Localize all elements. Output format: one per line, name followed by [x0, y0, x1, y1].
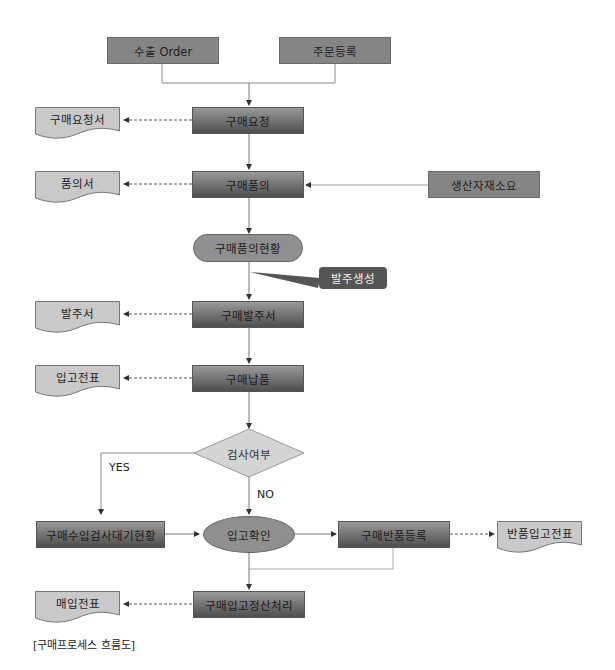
approval-document-label: 품의서	[35, 175, 120, 191]
order-create-callout: 발주생성	[319, 267, 387, 289]
purchase-order-box: 구매발주서	[192, 301, 304, 328]
purchase-delivery-box: 구매납품	[192, 365, 304, 392]
production-material-box: 생산자재소요	[428, 171, 540, 198]
receipt-confirm-ellipse: 입고확인	[203, 516, 295, 553]
inspection-decision-label: 검사여부	[209, 446, 289, 462]
receipt-confirm-label: 입고확인	[227, 527, 271, 543]
purchase-request-label: 구매요청	[226, 113, 270, 129]
order-registration-box: 주문등록	[279, 37, 391, 64]
order-document-label: 발주서	[35, 305, 120, 321]
purchase-return-label: 구매반품등록	[361, 527, 427, 543]
receipt-slip-label: 입고전표	[35, 369, 120, 385]
return-slip-document: 반품입고전표	[497, 521, 582, 554]
purchase-return-box: 구매반품등록	[338, 521, 450, 548]
diagram-caption: [구매프로세스 흐름도]	[33, 636, 135, 652]
order-create-label: 발주생성	[331, 270, 375, 286]
order-registration-label: 주문등록	[313, 43, 357, 59]
purchase-delivery-label: 구매납품	[226, 371, 270, 387]
request-document-label: 구매요청서	[35, 111, 120, 127]
approval-status-label: 구매품의현황	[215, 240, 281, 256]
yes-branch-label: YES	[109, 461, 130, 474]
purchase-request-box: 구매요청	[192, 107, 304, 134]
order-document: 발주서	[35, 301, 120, 334]
purchase-slip-document: 매입전표	[35, 591, 120, 624]
settlement-label: 구매입고정산처리	[205, 597, 293, 613]
inspection-waiting-box: 구매수입검사대기현황	[36, 521, 165, 548]
purchase-slip-label: 매입전표	[35, 595, 120, 611]
no-branch-label: NO	[257, 488, 274, 501]
connector-lines	[0, 0, 615, 670]
receipt-slip-document: 입고전표	[35, 365, 120, 398]
export-order-label: 수출 Order	[134, 43, 192, 59]
export-order-box: 수출 Order	[107, 37, 219, 64]
return-slip-label: 반품입고전표	[497, 525, 582, 541]
request-document: 구매요청서	[35, 107, 120, 140]
settlement-box: 구매입고정산처리	[193, 591, 305, 618]
purchase-approval-label: 구매품의	[226, 177, 270, 193]
approval-document: 품의서	[35, 171, 120, 204]
purchase-approval-box: 구매품의	[192, 171, 304, 198]
inspection-waiting-label: 구매수입검사대기현황	[46, 527, 156, 543]
purchase-order-label: 구매발주서	[221, 307, 276, 323]
approval-status-terminator: 구매품의현황	[193, 234, 303, 262]
production-material-label: 생산자재소요	[451, 177, 517, 193]
